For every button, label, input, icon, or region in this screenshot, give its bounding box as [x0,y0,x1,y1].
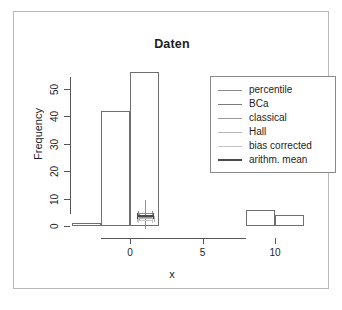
legend-line-swatch [218,118,242,119]
y-axis-title: Frequency [32,108,44,160]
y-axis-tick [64,171,70,172]
confidence-interval-bar [138,220,152,221]
y-axis-tick-label: 0 [50,217,60,235]
y-axis-tick-label: 20 [50,162,60,180]
histogram-bar [72,223,101,226]
legend-item: arithm. mean [211,153,335,167]
confidence-interval-cap [138,217,139,223]
legend-item-label: arithm. mean [249,155,307,165]
confidence-interval-cap [153,213,154,219]
legend-item: percentile [211,83,335,97]
y-axis-tick [64,226,70,227]
legend-item-label: BCa [249,99,268,109]
y-axis-tick [64,199,70,200]
x-axis-title: x [14,268,330,280]
legend-line-swatch [218,132,242,133]
legend-line-swatch [218,146,242,147]
y-axis-tick [64,116,70,117]
x-axis-tick-label: 5 [188,247,218,258]
histogram-bar [275,215,304,226]
y-axis-tick-label: 10 [50,190,60,208]
legend: percentileBCaclassicalHallbias corrected… [210,76,336,173]
legend-item: Hall [211,125,335,139]
confidence-interval-bar [137,215,153,217]
y-axis-line [70,77,71,214]
legend-item: classical [211,111,335,125]
confidence-interval-cap [137,213,138,219]
legend-line-swatch [218,90,242,91]
histogram-bar [246,210,275,226]
y-axis-tick-label: 50 [50,80,60,98]
legend-item: BCa [211,97,335,111]
x-axis-tick [203,238,204,244]
legend-item-label: classical [249,113,287,123]
legend-item-label: bias corrected [249,141,312,151]
x-axis-tick-label: 0 [115,247,145,258]
legend-item-label: percentile [249,85,292,95]
figure-container: Daten Frequency 01020304050 x 0510 perce… [0,0,342,310]
figure-frame: Daten Frequency 01020304050 x 0510 perce… [13,11,329,289]
legend-item: bias corrected [211,139,335,153]
x-axis-line [101,238,246,239]
x-axis-tick [275,238,276,244]
legend-item-label: Hall [249,127,266,137]
histogram-bar [101,111,130,226]
y-axis-tick-label: 40 [50,107,60,125]
x-axis-tick [130,238,131,244]
legend-line-swatch [218,159,242,161]
chart-title: Daten [14,37,330,51]
x-axis-tick-label: 10 [260,247,290,258]
y-axis-tick [64,89,70,90]
y-axis-tick-label: 30 [50,135,60,153]
y-axis-tick [64,144,70,145]
legend-line-swatch [218,104,242,105]
